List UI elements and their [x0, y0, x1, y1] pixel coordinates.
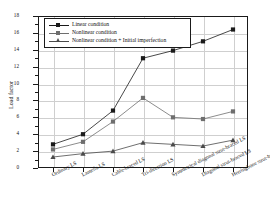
data-point-square — [51, 147, 55, 151]
data-point-square — [171, 49, 175, 53]
data-point-square — [141, 96, 145, 100]
data-point-square — [111, 119, 115, 123]
legend-marker-square-icon — [48, 29, 70, 37]
y-tick-mark — [33, 168, 38, 169]
data-point-square — [201, 39, 205, 43]
data-point-square — [51, 142, 55, 146]
y-tick-label: 0 — [1, 165, 19, 170]
legend-label: Nonlinear condition — [72, 30, 117, 36]
chart-container: 024681012141618 Load factor Ordinary LSL… — [0, 0, 270, 220]
data-point-square — [231, 27, 235, 31]
data-point-square — [201, 117, 205, 121]
legend-item-linear-condition: Linear condition — [48, 21, 187, 29]
series-nonlinear-condition-initial-imperfection — [50, 138, 235, 160]
data-point-triangle — [230, 138, 235, 143]
data-point-square — [231, 109, 235, 113]
y-tick-label: 2 — [1, 149, 19, 154]
y-tick-label: 4 — [1, 132, 19, 137]
data-point-square — [81, 132, 85, 136]
legend-marker-square-icon — [48, 21, 70, 29]
y-axis-title: Load factor — [8, 65, 14, 125]
legend-label: Nonlinear condition + Initial imperfecti… — [72, 38, 166, 44]
y-tick-label: 16 — [1, 30, 19, 35]
legend-item-nonlinear-condition: Nonlinear condition — [48, 29, 187, 37]
data-point-square — [171, 115, 175, 119]
legend-label: Linear condition — [72, 22, 109, 28]
data-point-square — [141, 56, 145, 60]
data-point-square — [81, 140, 85, 144]
y-tick-label: 14 — [1, 47, 19, 52]
legend-marker-triangle-icon — [48, 37, 70, 45]
chart-legend: Linear condition Nonlinear condition Non… — [44, 18, 191, 48]
legend-item-nonlinear-imperfection: Nonlinear condition + Initial imperfecti… — [48, 37, 187, 45]
data-point-square — [111, 108, 115, 112]
y-tick-label: 18 — [1, 13, 19, 18]
